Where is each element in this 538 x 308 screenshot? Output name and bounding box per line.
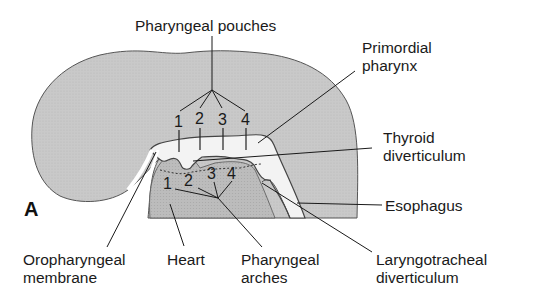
label-laryngotracheal-line2: diverticulum [376, 269, 487, 287]
arch-number-4: 4 [227, 166, 236, 182]
label-oropharyngeal-line1: Oropharyngeal [23, 251, 126, 269]
label-thyroid-diverticulum: Thyroid diverticulum [383, 129, 466, 165]
label-oropharyngeal-line2: membrane [23, 269, 126, 287]
pouch-number-1: 1 [174, 114, 183, 130]
label-pharyngeal-pouches: Pharyngeal pouches [135, 17, 276, 35]
label-primordial-pharynx-line2: pharynx [362, 57, 432, 75]
label-laryngotracheal-diverticulum: Laryngotracheal diverticulum [376, 251, 487, 287]
label-esophagus: Esophagus [385, 197, 463, 215]
pouch-number-4: 4 [241, 112, 250, 128]
label-thyroid-line2: diverticulum [383, 147, 466, 165]
label-arches-line2: arches [241, 269, 319, 287]
label-oropharyngeal-membrane: Oropharyngeal membrane [23, 251, 126, 287]
arch-number-3: 3 [207, 166, 216, 182]
label-pharyngeal-arches: Pharyngeal arches [241, 251, 319, 287]
label-laryngotracheal-line1: Laryngotracheal [376, 251, 487, 269]
label-heart: Heart [167, 251, 205, 269]
label-arches-line1: Pharyngeal [241, 251, 319, 269]
label-primordial-pharynx-line1: Primordial [362, 39, 432, 57]
pouch-number-3: 3 [218, 112, 227, 128]
arch-number-2: 2 [184, 173, 193, 189]
label-thyroid-line1: Thyroid [383, 129, 466, 147]
panel-letter: A [24, 198, 38, 221]
label-primordial-pharynx: Primordial pharynx [362, 39, 432, 75]
pouch-number-2: 2 [195, 111, 204, 127]
arch-number-1: 1 [163, 176, 172, 192]
